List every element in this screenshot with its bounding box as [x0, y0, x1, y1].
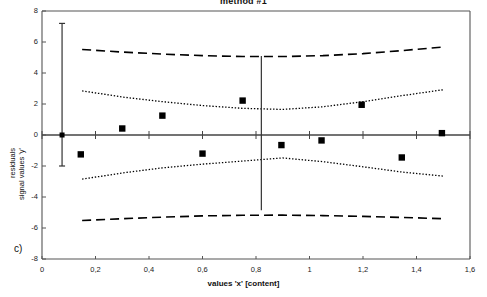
data-point-marker [78, 151, 84, 157]
x-tick-label: 1 [290, 265, 330, 274]
y-tick-label: -2 [0, 161, 38, 170]
series-inner-confidence-band-lower [82, 158, 443, 179]
chart-figure: method #1 residuals signal values 'y' c)… [0, 0, 487, 297]
x-tick-label: 0,8 [236, 265, 276, 274]
x-tick-label: 0,2 [76, 265, 116, 274]
data-point-marker [358, 102, 364, 108]
y-tick-label: -6 [0, 223, 38, 232]
data-point-marker [199, 150, 205, 156]
series-outer-prediction-band-lower [82, 215, 443, 220]
data-point-marker [439, 130, 445, 136]
x-tick-label: 1,6 [450, 265, 487, 274]
y-tick-label: -8 [0, 254, 38, 263]
y-tick-label: 4 [0, 68, 38, 77]
x-tick-label: 1,4 [397, 265, 437, 274]
data-point-marker [239, 97, 245, 103]
data-point-marker [159, 112, 165, 118]
series-outer-prediction-band-upper [82, 47, 443, 57]
data-point-marker [119, 125, 125, 131]
y-tick-label: 6 [0, 37, 38, 46]
series-inner-confidence-band-upper [82, 90, 443, 110]
x-tick-label: 0 [22, 265, 62, 274]
data-point-marker [399, 154, 405, 160]
data-point-marker [318, 137, 324, 143]
y-tick-label: 8 [0, 6, 38, 15]
x-tick-label: 0,6 [183, 265, 223, 274]
y-tick-label: 0 [0, 130, 38, 139]
y-tick-label: 2 [0, 99, 38, 108]
x-tick-label: 1,2 [343, 265, 383, 274]
y-tick-label: -4 [0, 192, 38, 201]
plot-area [0, 0, 487, 297]
data-point-marker [278, 142, 284, 148]
error-bar-left-marker [60, 133, 65, 138]
x-tick-label: 0,4 [129, 265, 169, 274]
